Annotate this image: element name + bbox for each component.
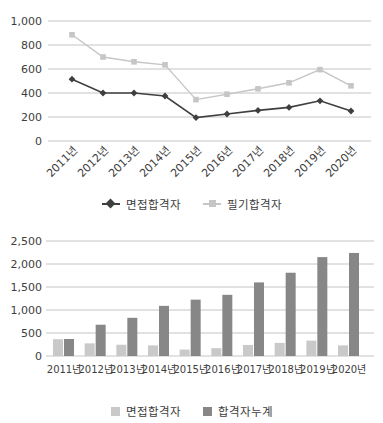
bar <box>85 343 95 356</box>
x-axis-tick-label: 2014년 <box>137 144 173 180</box>
x-axis-tick-label: 2015년 <box>173 364 207 375</box>
data-point-marker <box>69 76 76 83</box>
bar-chart-legend: 면접합격자 합격자누계 <box>0 403 383 419</box>
data-point-marker <box>100 90 107 97</box>
x-axis-tick-label: 2018년 <box>261 144 297 180</box>
bar <box>159 306 169 356</box>
legend-item-cumulative-passers: 합격자누계 <box>203 403 273 419</box>
x-axis-tick-label: 2011년 <box>47 364 81 375</box>
x-axis-tick-label: 2018년 <box>268 364 302 375</box>
bar-chart-canvas: 05001,0001,5002,0002,5002011년2012년2013년2… <box>0 216 383 384</box>
y-axis-tick-label: 0 <box>35 350 42 363</box>
series-line <box>72 79 351 117</box>
data-point-marker <box>131 59 137 65</box>
bar <box>306 341 316 356</box>
bar-series-1 <box>64 253 359 356</box>
bar-chart-figure: 05001,0001,5002,0002,5002011년2012년2013년2… <box>0 216 383 419</box>
x-axis-tick-label: 2016년 <box>205 364 239 375</box>
line-series-0 <box>69 76 355 121</box>
data-point-marker <box>193 97 199 103</box>
data-point-marker <box>224 111 231 118</box>
data-point-marker <box>286 104 293 111</box>
line-chart-canvas: 02004006008001,0002011년2012년2013년2014년20… <box>0 0 383 186</box>
legend-item-written-passers: 필기합격자 <box>203 196 282 212</box>
line-chart-figure: 02004006008001,0002011년2012년2013년2014년20… <box>0 0 383 212</box>
y-axis-tick-label: 0 <box>35 135 42 148</box>
y-axis-tick-label: 1,500 <box>11 281 43 294</box>
line-series-1 <box>69 32 354 102</box>
bar <box>286 273 296 356</box>
data-point-marker <box>317 97 324 104</box>
x-axis-tick-label: 2013년 <box>110 364 144 375</box>
legend-label-interview-passers: 면접합격자 <box>126 196 181 212</box>
bar <box>53 339 63 356</box>
diamond-icon <box>106 199 116 209</box>
x-axis-tick-label: 2015년 <box>168 144 204 180</box>
data-point-marker <box>255 107 262 114</box>
y-axis-tick-label: 500 <box>21 327 42 340</box>
square-icon <box>209 200 216 207</box>
data-point-marker <box>255 86 261 92</box>
data-point-marker <box>131 90 138 97</box>
data-point-marker <box>286 80 292 86</box>
bar <box>116 345 126 356</box>
x-axis-tick-label: 2013년 <box>106 144 142 180</box>
x-axis-tick-label: 2020년 <box>323 144 359 180</box>
x-axis-tick-label: 2012년 <box>75 144 111 180</box>
bar <box>222 295 232 356</box>
x-axis-tick-label: 2019년 <box>300 364 334 375</box>
legend-item-interview-passers-bar: 면접합격자 <box>111 403 181 419</box>
bar <box>275 343 285 356</box>
x-axis-tick-label: 2017년 <box>230 144 266 180</box>
data-point-marker <box>348 108 355 115</box>
y-axis-tick-label: 400 <box>21 87 42 100</box>
bar <box>211 348 221 356</box>
data-point-marker <box>100 54 106 60</box>
bar <box>243 345 253 356</box>
x-axis-tick-label: 2014년 <box>142 364 176 375</box>
y-axis-tick-label: 1,000 <box>11 304 43 317</box>
page: 02004006008001,0002011년2012년2013년2014년20… <box>0 0 383 423</box>
data-point-marker <box>317 67 323 73</box>
legend-item-interview-passers: 면접합격자 <box>102 196 181 212</box>
x-axis-tick-label: 2017년 <box>237 364 271 375</box>
bar <box>349 253 359 356</box>
interview-passers-swatch-icon <box>111 407 120 416</box>
y-axis-tick-label: 800 <box>21 39 42 52</box>
x-axis-tick-label: 2020년 <box>332 364 366 375</box>
data-point-marker <box>69 32 75 38</box>
x-axis-tick-label: 2016년 <box>199 144 235 180</box>
bar <box>191 300 201 356</box>
bar <box>254 282 264 356</box>
data-point-marker <box>348 83 354 89</box>
x-axis-tick-label: 2012년 <box>78 364 112 375</box>
legend-label-cumulative-passers: 합격자누계 <box>218 403 273 419</box>
line-chart-legend: 면접합격자 필기합격자 <box>0 196 383 212</box>
x-axis-tick-label: 2019년 <box>292 144 328 180</box>
y-axis-tick-label: 200 <box>21 111 42 124</box>
cumulative-passers-swatch-icon <box>203 407 212 416</box>
bar <box>317 257 327 356</box>
y-axis-tick-label: 2,000 <box>11 258 43 271</box>
bar <box>148 345 158 356</box>
bar <box>127 318 137 356</box>
data-point-marker <box>162 62 168 68</box>
y-axis-tick-label: 2,500 <box>11 235 43 248</box>
x-axis-tick-label: 2011년 <box>44 144 80 180</box>
square-line-marker-icon <box>203 203 221 205</box>
bar <box>180 350 190 356</box>
data-point-marker <box>224 91 230 97</box>
legend-label-written-passers: 필기합격자 <box>227 196 282 212</box>
diamond-line-marker-icon <box>102 203 120 205</box>
bar <box>64 339 74 356</box>
bar <box>338 345 348 356</box>
bar <box>96 325 106 356</box>
y-axis-tick-label: 600 <box>21 63 42 76</box>
y-axis-tick-label: 1,000 <box>11 15 43 28</box>
legend-label-interview-passers-bar: 면접합격자 <box>126 403 181 419</box>
